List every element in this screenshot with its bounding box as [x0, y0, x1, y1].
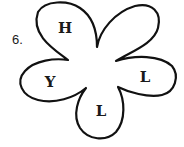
flower-puzzle: 6. H L L Y: [0, 0, 184, 147]
petal-letter-left: Y: [45, 75, 56, 90]
petal-letter-top-left: H: [58, 21, 72, 36]
petal-letter-right: L: [140, 70, 151, 85]
petal-letter-bottom: L: [96, 104, 107, 119]
question-number: 6.: [12, 32, 23, 47]
flower-outline: [0, 0, 184, 147]
